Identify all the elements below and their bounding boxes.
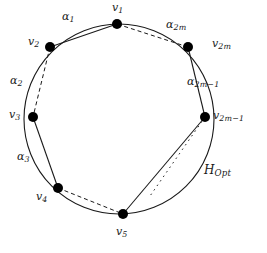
chord-v3-v4 xyxy=(33,117,58,188)
vertex-label-v2: v2 xyxy=(28,36,39,49)
arc-label-alpha-2-sub: 2 xyxy=(17,79,22,88)
arc-label-alpha-2m-sub: 2m xyxy=(173,23,186,32)
vertex-label-v2m-1: v2m−1 xyxy=(213,110,244,123)
hopt-label: HOpt xyxy=(204,164,231,178)
vertex-label-v3-sub: 3 xyxy=(15,113,20,122)
vertex-dot-v2m-1 xyxy=(200,112,210,122)
vertex-dot-v3 xyxy=(28,112,38,122)
vertex-dot-v5 xyxy=(118,209,128,219)
chord-v1-v2 xyxy=(50,24,117,47)
vertex-label-v2-sub: 2 xyxy=(34,40,39,49)
vertex-dot-v1 xyxy=(112,19,122,29)
vertex-label-v1-sub: 1 xyxy=(118,6,123,15)
arc-label-alpha-2m-1-sub: 2m−1 xyxy=(194,80,219,89)
vertex-dot-v2m xyxy=(183,42,193,52)
vertex-dot-v4 xyxy=(53,183,63,193)
vertex-label-v2m-sub: 2m xyxy=(218,42,231,51)
vertex-label-v5-sub: 5 xyxy=(122,230,127,239)
arc-label-alpha-2m-1: α2m−1 xyxy=(187,76,219,89)
chord-v5-v2m-1 xyxy=(123,117,205,214)
vertex-label-v5: v5 xyxy=(116,226,127,239)
circle-diagram-figure: v1 v2 v3 v4 v5 v2m−1 v2m α1 α2 α3 α2m α2… xyxy=(0,0,267,253)
arc-label-alpha-1-sub: 1 xyxy=(69,15,74,24)
dashed-chord-v2-v3 xyxy=(33,47,50,117)
hopt-circle xyxy=(24,24,214,214)
vertex-label-v4-sub: 4 xyxy=(42,195,47,204)
arc-label-alpha-2: α2 xyxy=(10,75,23,88)
hopt-label-base: H xyxy=(204,163,214,177)
vertex-label-v2m-1-sub: 2m−1 xyxy=(219,114,244,123)
arc-label-alpha-3: α3 xyxy=(17,151,30,164)
vertex-label-v1: v1 xyxy=(112,2,123,15)
arc-label-alpha-1: α1 xyxy=(62,11,75,24)
vertex-label-v3: v3 xyxy=(9,109,20,122)
arc-label-alpha-2m: α2m xyxy=(166,19,186,32)
vertex-label-v4: v4 xyxy=(36,191,47,204)
hopt-label-sub: Opt xyxy=(214,168,231,178)
vertex-dot-v2 xyxy=(45,42,55,52)
arc-label-alpha-3-sub: 3 xyxy=(24,155,29,164)
dashed-chord-v2m-1-v5 xyxy=(150,117,205,196)
vertex-label-v2m: v2m xyxy=(212,38,231,51)
